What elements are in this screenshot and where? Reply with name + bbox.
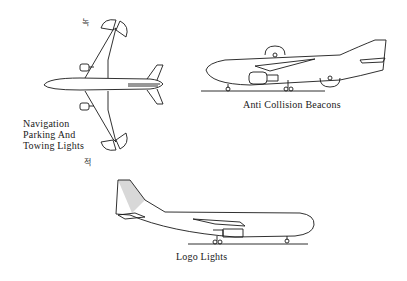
nav-light-lobe-green-1 [101,20,116,30]
red-nav-light-marker: 적 [84,156,91,167]
nav-light-lobe-red-2 [116,133,127,149]
nav-light-lobe-red-1 [101,140,116,150]
logo-lights-label: Logo Lights [176,251,227,262]
label-line-3: Towing Lights [23,140,84,151]
label-line-2: Parking And [23,129,84,140]
navigation-lights-label: Navigation Parking And Towing Lights [23,118,84,151]
anti-collision-beacons-label: Anti Collision Beacons [243,99,341,110]
anti-collision-aircraft [201,40,386,91]
logo-lights-aircraft [116,180,314,244]
top-beacon-icon [265,46,285,55]
label-line-1: Navigation [23,118,84,129]
green-nav-light-marker: 녹 [82,16,89,27]
logo-light-tail-area [118,180,145,213]
nav-light-lobe-green-2 [116,21,127,37]
bottom-beacon-icon [320,78,340,87]
